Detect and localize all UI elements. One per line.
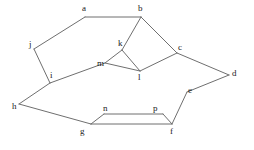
vertex-label-k: k (118, 39, 123, 48)
vertex-label-e: e (188, 86, 192, 95)
edge-g-n (91, 114, 104, 124)
edge-j-i (34, 49, 50, 83)
edge-d-e (187, 75, 229, 92)
vertex-label-c: c (178, 43, 182, 52)
edge-p-f (163, 114, 172, 124)
vertex-label-b: b (138, 4, 143, 13)
vertex-label-f: f (170, 127, 173, 136)
edge-b-k (122, 17, 141, 50)
edge-i-h (19, 83, 50, 104)
vertex-label-a: a (82, 4, 86, 13)
vertex-label-m: m (97, 59, 104, 68)
graph-diagram: abcdefghijklmnp (0, 0, 254, 150)
edge-b-c (141, 17, 177, 53)
edge-c-d (177, 53, 229, 75)
edge-a-j (34, 17, 85, 49)
vertex-label-n: n (103, 104, 108, 113)
vertex-label-j: j (29, 40, 32, 49)
edge-l-c (140, 53, 177, 71)
edge-h-g (19, 104, 91, 124)
edge-k-m (105, 50, 122, 63)
vertex-label-p: p (153, 104, 158, 113)
vertex-label-i: i (50, 71, 53, 80)
vertex-label-l: l (138, 73, 141, 82)
edge-e-f (172, 92, 187, 124)
graph-canvas (0, 0, 254, 150)
vertex-label-h: h (12, 102, 17, 111)
vertex-label-d: d (232, 69, 237, 78)
vertex-label-g: g (80, 127, 85, 136)
